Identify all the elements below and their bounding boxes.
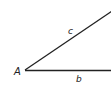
- diagram-svg: A c b: [0, 0, 111, 96]
- triangle-diagram: A c b: [0, 0, 111, 96]
- side-c-line: [25, 11, 111, 70]
- side-c-label: c: [68, 26, 73, 36]
- side-b-label: b: [76, 74, 82, 84]
- vertex-a-label: A: [13, 66, 21, 77]
